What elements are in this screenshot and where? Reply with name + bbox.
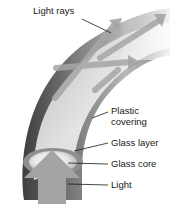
label-light: Light xyxy=(111,180,132,191)
label-glass-layer: Glass layer xyxy=(111,138,159,149)
fiber-optic-diagram xyxy=(0,0,170,204)
label-plastic-covering-line1: Plastic xyxy=(111,106,139,117)
leader-line-light-rays xyxy=(82,19,111,33)
label-plastic-covering-line2: covering xyxy=(111,117,147,128)
label-light-rays: Light rays xyxy=(33,6,74,17)
label-glass-core: Glass core xyxy=(111,159,156,170)
